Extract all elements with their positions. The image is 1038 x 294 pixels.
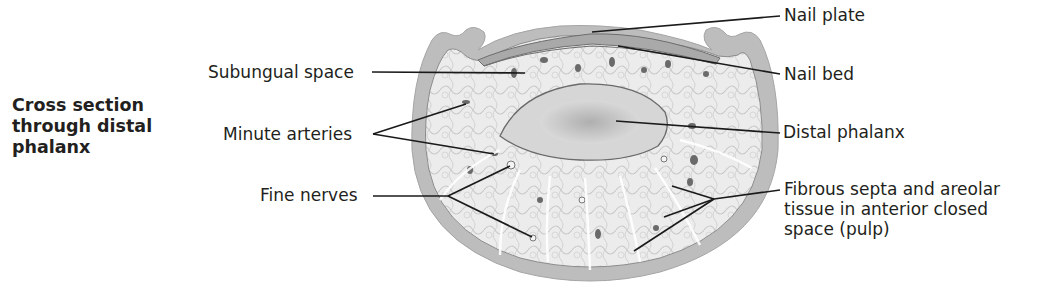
phalanx-cross-section-illustration xyxy=(0,0,1038,294)
